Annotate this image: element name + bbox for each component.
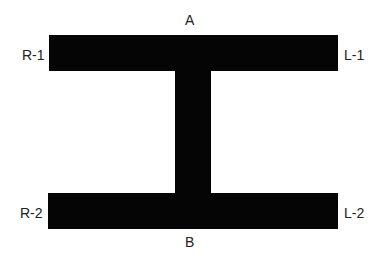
label-bottom-right: L-2 [344, 206, 364, 220]
label-bottom: B [185, 235, 194, 249]
web [175, 70, 211, 194]
label-top-left: R-1 [22, 48, 45, 62]
bottom-flange [48, 193, 338, 229]
label-top-right: L-1 [344, 48, 364, 62]
label-top: A [185, 13, 194, 27]
top-flange [49, 35, 338, 71]
label-bottom-left: R-2 [20, 206, 43, 220]
